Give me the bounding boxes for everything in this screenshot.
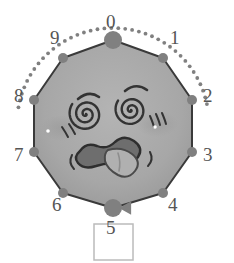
vertex-label-0: 0	[106, 12, 116, 31]
vertex-marker-0[interactable]	[104, 31, 122, 49]
arc-dot	[82, 31, 86, 35]
figure-canvas: 0123456789	[0, 0, 234, 263]
arc-dot	[46, 51, 50, 55]
vertex-marker-4[interactable]	[158, 188, 168, 198]
arc-dot	[96, 27, 100, 31]
vertex-marker-2[interactable]	[187, 95, 197, 105]
arc-dot	[174, 49, 178, 53]
arc-dot	[137, 30, 141, 34]
vertex-label-8: 8	[14, 86, 24, 105]
arc-dot	[17, 105, 21, 109]
vertex-label-1: 1	[170, 28, 180, 47]
vertex-marker-1[interactable]	[158, 53, 168, 63]
arc-dot	[188, 64, 192, 68]
arc-dot	[37, 62, 41, 66]
arc-dot	[29, 73, 33, 77]
arc-dot	[116, 26, 120, 30]
arc-dot	[41, 56, 45, 60]
arc-dot	[32, 67, 36, 71]
vertex-label-4: 4	[168, 195, 178, 214]
arc-dot	[192, 70, 196, 74]
arc-dot	[195, 76, 199, 80]
arc-dot	[144, 32, 148, 36]
arc-dot	[89, 29, 93, 33]
vertex-label-2: 2	[203, 86, 213, 105]
vertex-marker-8[interactable]	[29, 95, 39, 105]
arc-dot	[183, 59, 187, 63]
arc-dot	[69, 36, 73, 40]
arc-dot	[75, 33, 79, 37]
arc-dot	[123, 27, 127, 31]
vertex-label-5: 5	[106, 218, 116, 237]
arc-dot	[130, 28, 134, 32]
vertex-marker-9[interactable]	[58, 53, 68, 63]
vertex-marker-3[interactable]	[187, 147, 197, 157]
vertex-label-7: 7	[14, 145, 24, 164]
vertex-marker-7[interactable]	[29, 147, 39, 157]
vertex-label-9: 9	[50, 28, 60, 47]
polygon-diagram-svg	[0, 0, 234, 263]
left-highlight-dot	[46, 129, 50, 133]
arc-dot	[150, 34, 154, 38]
vertex-label-3: 3	[203, 145, 213, 164]
arc-dot	[156, 37, 160, 41]
vertex-marker-5[interactable]	[104, 199, 122, 217]
vertex-label-6: 6	[52, 195, 62, 214]
arc-dot	[198, 82, 202, 86]
arc-dot	[162, 41, 166, 45]
arc-dot	[63, 39, 67, 43]
right-highlight-dot	[153, 125, 157, 129]
arc-dot	[25, 79, 29, 83]
arc-dot	[179, 54, 183, 58]
